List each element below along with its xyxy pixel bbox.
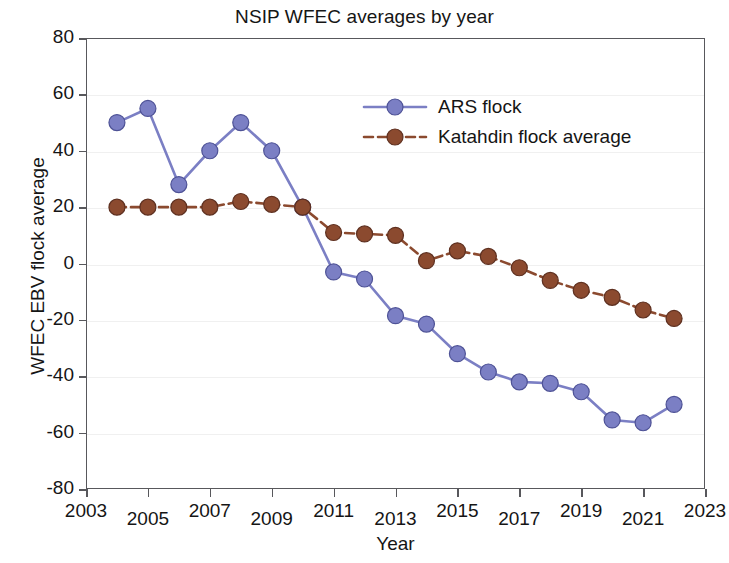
x-axis-title: Year [86,533,705,555]
x-tick-label: 2013 [361,508,431,530]
chart-title: NSIP WFEC averages by year [0,6,729,28]
x-tick-mark [581,489,583,497]
gridline [87,377,704,378]
x-tick-mark [457,489,459,497]
gridline [87,434,704,435]
x-tick-mark [334,489,336,497]
y-tick-label: -40 [8,364,74,386]
y-tick-mark [79,207,86,209]
gridline [87,321,704,322]
x-tick-mark [643,489,645,497]
x-tick-mark [396,489,398,497]
x-tick-label: 2005 [113,508,183,530]
y-tick-label: -20 [8,308,74,330]
chart-figure: NSIP WFEC averages by year WFEC EBV floc… [0,0,729,563]
x-tick-label: 2021 [608,508,678,530]
x-tick-label: 2017 [484,508,554,530]
x-tick-label: 2011 [299,500,369,522]
y-tick-label: 40 [8,139,74,161]
x-tick-label: 2023 [670,500,729,522]
y-tick-mark [79,489,86,491]
y-tick-label: 20 [8,195,74,217]
x-tick-mark [519,489,521,497]
x-tick-label: 2019 [546,500,616,522]
gridline [87,265,704,266]
legend-swatch [362,124,428,150]
y-tick-label: 60 [8,82,74,104]
x-tick-label: 2009 [237,508,307,530]
legend-label: Katahdin flock average [438,126,631,148]
legend-item-2: Katahdin flock average [362,122,662,152]
y-tick-mark [79,151,86,153]
y-tick-label: 0 [8,252,74,274]
y-tick-mark [79,264,86,266]
y-tick-mark [79,94,86,96]
x-tick-mark [272,489,274,497]
x-tick-mark [86,489,88,497]
y-tick-label: -80 [8,477,74,499]
x-tick-label: 2003 [51,500,121,522]
x-tick-mark [705,489,707,497]
x-tick-label: 2007 [175,500,245,522]
y-tick-mark [79,320,86,322]
y-tick-mark [79,433,86,435]
y-tick-mark [79,376,86,378]
y-tick-label: -60 [8,421,74,443]
legend-swatch [362,94,428,120]
gridline [87,208,704,209]
y-tick-mark [79,38,86,40]
x-tick-label: 2015 [422,500,492,522]
chart-legend: ARS flockKatahdin flock average [362,92,662,152]
x-tick-mark [148,489,150,497]
y-tick-label: 80 [8,26,74,48]
x-tick-mark [210,489,212,497]
legend-label: ARS flock [438,96,521,118]
legend-item-1: ARS flock [362,92,662,122]
